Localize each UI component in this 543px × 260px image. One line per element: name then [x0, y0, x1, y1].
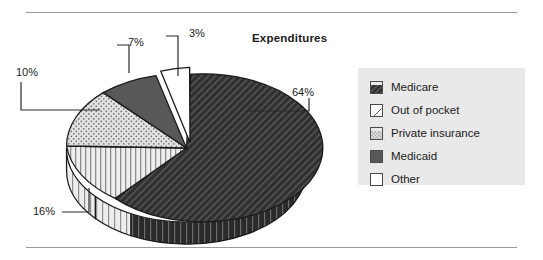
- leader-line-medicaid: [117, 45, 129, 73]
- medicaid-swatch-icon: [370, 150, 383, 163]
- legend-item-out-of-pocket[interactable]: Out of pocket: [370, 100, 459, 120]
- legend-label-medicaid: Medicaid: [391, 150, 437, 162]
- pie-chart-figure: Expenditures: [0, 0, 543, 260]
- private-insurance-swatch-icon: [370, 127, 383, 140]
- value-label-other: 3%: [189, 27, 205, 39]
- value-label-out-of-pocket: 16%: [33, 205, 55, 217]
- legend-label-private-insurance: Private insurance: [391, 127, 480, 139]
- legend-label-other: Other: [391, 173, 420, 185]
- value-label-medicaid: 7%: [128, 36, 144, 48]
- other-swatch-icon: [370, 173, 383, 186]
- legend-item-medicaid[interactable]: Medicaid: [370, 146, 437, 166]
- legend-item-private-insurance[interactable]: Private insurance: [370, 123, 480, 143]
- legend-label-out-of-pocket: Out of pocket: [391, 104, 459, 116]
- value-label-private-insurance: 10%: [16, 66, 38, 78]
- legend-label-medicare: Medicare: [391, 81, 438, 93]
- legend-panel: Medicare Out of pocket: [358, 68, 525, 185]
- medicare-swatch-icon: [370, 81, 383, 94]
- legend-item-other[interactable]: Other: [370, 169, 420, 189]
- out-of-pocket-swatch-icon: [370, 104, 383, 117]
- value-label-medicare: 64%: [292, 86, 314, 98]
- legend-item-medicare[interactable]: Medicare: [370, 77, 438, 97]
